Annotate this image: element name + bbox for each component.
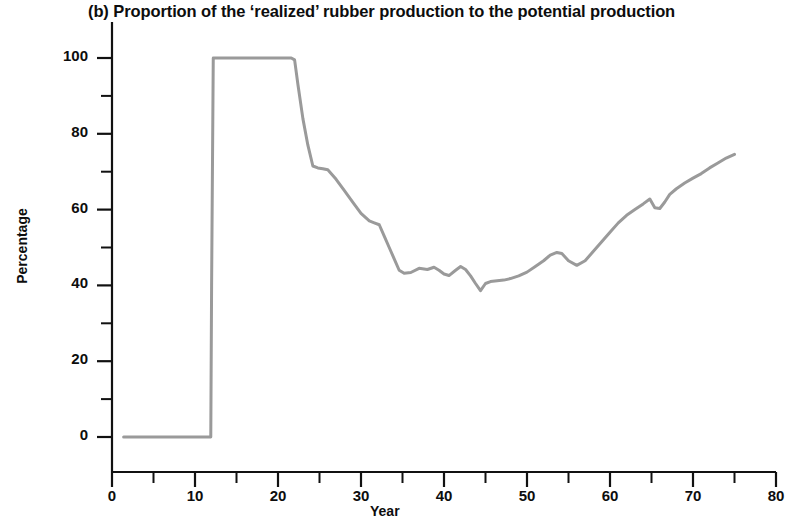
data-series-group (124, 58, 735, 437)
x-tick-marks (112, 472, 776, 487)
data-line (124, 58, 735, 437)
chart-figure: (b) Proportion of the ‘realized’ rubber … (0, 0, 787, 532)
plot-area (0, 0, 787, 532)
y-tick-marks (97, 58, 112, 437)
